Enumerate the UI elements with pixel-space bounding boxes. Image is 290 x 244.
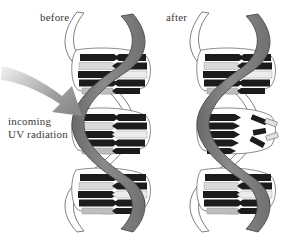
- label-uv-radiation: incoming UV radiation: [8, 115, 68, 141]
- label-before: before: [40, 11, 69, 24]
- label-uv-radiation-line2: UV radiation: [8, 128, 68, 141]
- uv-radiation-arrow: [1, 66, 82, 116]
- label-uv-radiation-line1: incoming: [8, 115, 68, 128]
- label-after: after: [166, 11, 187, 24]
- dna-uv-damage-figure: before after incoming UV radiation: [0, 0, 290, 244]
